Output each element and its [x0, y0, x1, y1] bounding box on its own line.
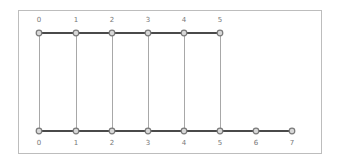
- diagram-frame: [19, 11, 322, 154]
- top-node-2: [109, 30, 115, 36]
- top-node-0: [36, 30, 42, 36]
- bottom-node-label-6: 6: [254, 139, 259, 147]
- bottom-node-3: [145, 128, 151, 134]
- bottom-node-6: [253, 128, 259, 134]
- bottom-node-7: [289, 128, 295, 134]
- bottom-node-4: [181, 128, 187, 134]
- bottom-node-5: [217, 128, 223, 134]
- bottom-node-1: [73, 128, 79, 134]
- top-node-label-2: 2: [110, 16, 114, 24]
- ladder-diagram: 01234501234567: [0, 0, 340, 162]
- top-node-label-4: 4: [182, 16, 187, 24]
- bottom-node-label-7: 7: [290, 139, 294, 147]
- bottom-node-label-4: 4: [182, 139, 187, 147]
- bottom-node-2: [109, 128, 115, 134]
- bottom-node-label-0: 0: [37, 139, 41, 147]
- bottom-node-0: [36, 128, 42, 134]
- top-node-label-1: 1: [74, 16, 78, 24]
- top-node-4: [181, 30, 187, 36]
- top-node-3: [145, 30, 151, 36]
- top-node-label-5: 5: [218, 16, 222, 24]
- bottom-node-label-1: 1: [74, 139, 78, 147]
- bottom-node-label-5: 5: [218, 139, 222, 147]
- top-node-label-3: 3: [146, 16, 150, 24]
- top-node-1: [73, 30, 79, 36]
- top-node-5: [217, 30, 223, 36]
- bottom-node-label-2: 2: [110, 139, 114, 147]
- top-node-label-0: 0: [37, 16, 41, 24]
- bottom-node-label-3: 3: [146, 139, 150, 147]
